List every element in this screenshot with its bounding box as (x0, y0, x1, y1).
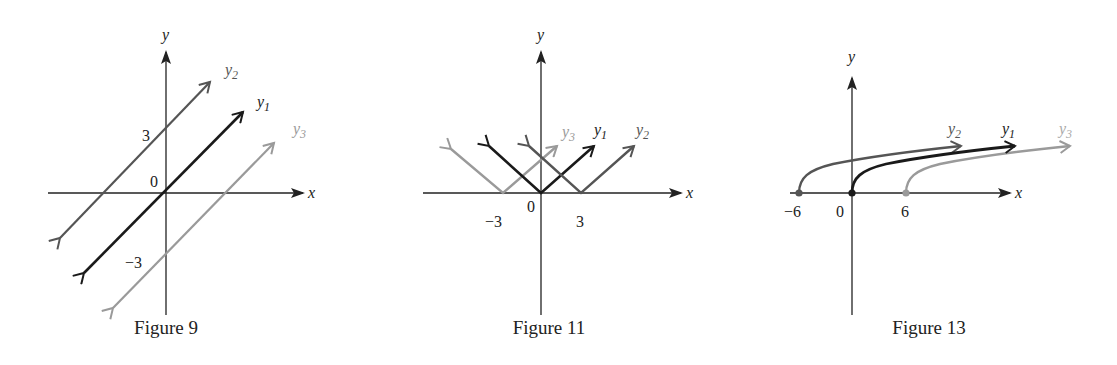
figure-caption: Figure 13 (892, 317, 965, 338)
origin-label: 0 (527, 198, 535, 215)
y2-curve (799, 146, 961, 193)
y3-curve (906, 146, 1070, 193)
y-axis-label: y (160, 26, 170, 44)
y1-label: y1 (1000, 120, 1015, 141)
figures-canvas: y x 0 3 −3 y2 y1 y3 Figure 9 y x 0 −3 3 … (0, 0, 1117, 365)
tick-label-3: 3 (142, 127, 150, 144)
tick-label-neg3: −3 (125, 254, 142, 271)
figure-11: y x 0 −3 3 y3 y1 y2 Figure 11 (423, 26, 693, 338)
y2-label: y2 (223, 61, 238, 82)
y2-curve (529, 146, 634, 193)
figure-9: y x 0 3 −3 y2 y1 y3 Figure 9 (48, 26, 315, 338)
y1-curve (852, 146, 1015, 193)
x-axis-label: x (1014, 184, 1022, 201)
y3-label: y3 (560, 123, 575, 144)
x-axis-label: x (307, 184, 315, 201)
y3-line (113, 143, 274, 308)
figure-13: y x 0 −6 6 y2 y1 y3 Figure 13 (784, 48, 1072, 338)
figure-caption: Figure 11 (513, 317, 586, 338)
y-axis-label: y (846, 48, 856, 66)
origin-label: 0 (836, 203, 844, 220)
y3-label: y3 (291, 120, 306, 141)
y-axis-label: y (535, 26, 545, 44)
y2-label: y2 (946, 120, 961, 141)
y1-label: y1 (255, 93, 270, 114)
y2-endpoint-dot (795, 189, 802, 196)
tick-label-neg3: −3 (485, 213, 502, 230)
y2-label: y2 (634, 121, 649, 142)
origin-label: 0 (150, 173, 158, 190)
y2-line (60, 82, 210, 238)
figure-caption: Figure 9 (134, 317, 198, 338)
tick-label-6: 6 (901, 203, 909, 220)
tick-label-neg6: −6 (784, 203, 801, 220)
y3-label: y3 (1057, 120, 1072, 141)
x-axis-label: x (685, 184, 693, 201)
y3-endpoint-dot (902, 189, 909, 196)
tick-label-3: 3 (576, 213, 584, 230)
y1-label: y1 (592, 121, 607, 142)
y1-endpoint-dot (848, 189, 855, 196)
